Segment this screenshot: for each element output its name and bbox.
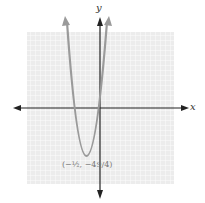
curve-left-arrow-icon (62, 16, 70, 26)
y-axis-top-arrow-icon (97, 17, 103, 26)
x-axis-label: x (190, 101, 196, 112)
vertex-label: (−½, −49/4) (62, 160, 112, 169)
curve-right-arrow-icon (104, 16, 112, 26)
graph (0, 0, 205, 203)
y-axis-label: y (96, 2, 102, 13)
y-axis-bottom-arrow-icon (97, 190, 103, 199)
x-axis-left-arrow-icon (13, 105, 21, 111)
x-axis-right-arrow-icon (181, 105, 189, 111)
